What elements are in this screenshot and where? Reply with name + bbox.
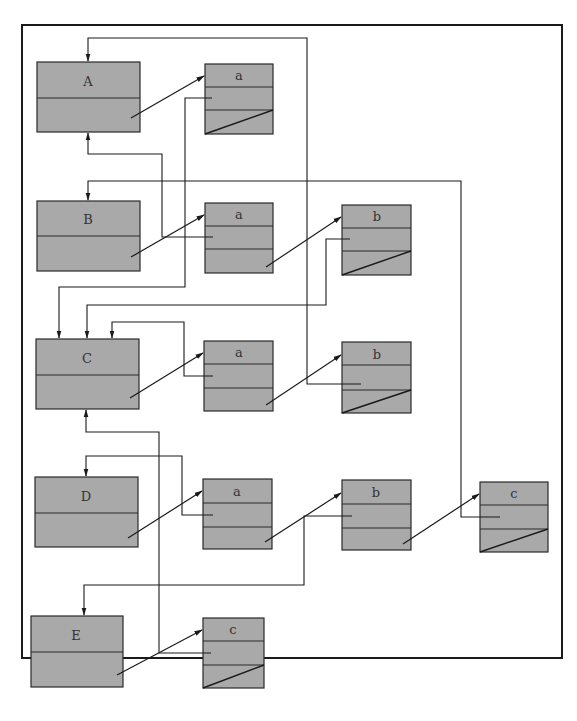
node-label: b xyxy=(373,209,381,224)
header-box-C: C xyxy=(36,339,139,409)
node-label: a xyxy=(235,207,243,222)
header-box-E: E xyxy=(31,616,123,687)
node-B-a: a xyxy=(205,203,273,273)
node-B-b: b xyxy=(342,205,411,275)
header-label-A: A xyxy=(82,74,93,89)
node-label: a xyxy=(235,68,243,83)
header-label-D: D xyxy=(81,489,91,504)
header-label-E: E xyxy=(71,628,81,643)
node-A-a: a xyxy=(205,64,273,134)
node-label: a xyxy=(233,484,241,499)
header-box-B: B xyxy=(37,201,140,271)
node-D-a: a xyxy=(203,479,272,549)
node-C-a: a xyxy=(204,341,273,411)
diagram-canvas: A B C D E a a b xyxy=(0,0,577,721)
header-label-C: C xyxy=(82,351,92,366)
header-label-B: B xyxy=(83,212,93,227)
node-label: b xyxy=(373,347,381,362)
header-box-D: D xyxy=(35,477,138,547)
node-label: c xyxy=(229,622,236,637)
node-label: c xyxy=(510,486,517,501)
node-label: a xyxy=(235,345,243,360)
header-box-A: A xyxy=(37,62,140,132)
node-D-b: b xyxy=(342,480,411,550)
node-E-c: c xyxy=(203,618,264,688)
node-C-b: b xyxy=(342,342,411,413)
node-label: b xyxy=(372,485,380,500)
